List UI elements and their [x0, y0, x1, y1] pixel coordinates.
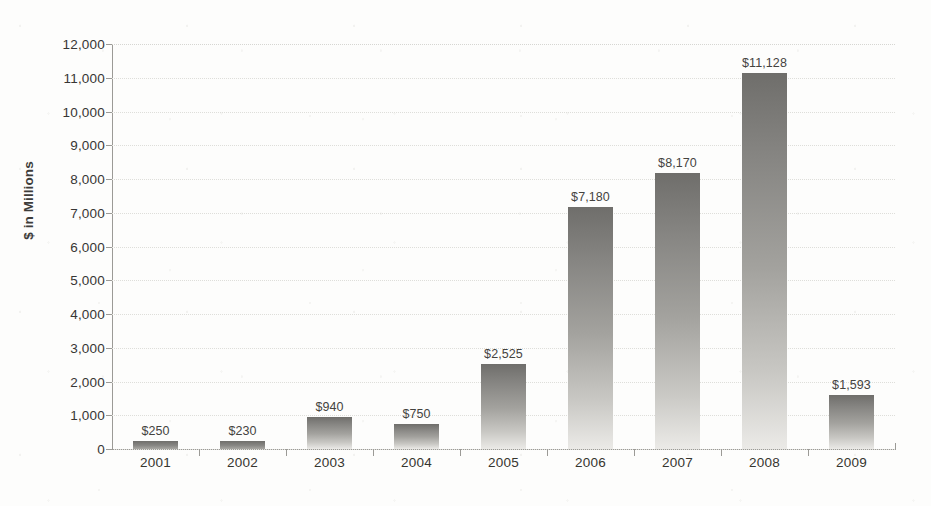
y-axis-tick-mark: [106, 415, 112, 416]
bar: [220, 441, 265, 449]
y-axis-tick-mark: [106, 78, 112, 79]
bar: [742, 73, 787, 449]
bar-value-label: $7,180: [546, 190, 636, 204]
bar: [829, 395, 874, 449]
bar: [481, 364, 526, 449]
y-axis-tick-label: 1,000: [0, 408, 105, 423]
y-axis-tick-label: 11,000: [0, 70, 105, 85]
y-axis-tick-label: 4,000: [0, 307, 105, 322]
y-axis-tick-label: 2,000: [0, 374, 105, 389]
bar-value-label: $8,170: [633, 156, 723, 170]
y-axis-tick-label: 8,000: [0, 172, 105, 187]
y-axis-tick-label: 0: [0, 442, 105, 457]
bar-value-label: $11,128: [720, 56, 810, 70]
y-axis-tick-mark: [106, 247, 112, 248]
x-axis-tick-label: 2001: [111, 455, 201, 470]
bar-value-label: $250: [111, 424, 201, 438]
x-axis-tick-label: 2003: [285, 455, 375, 470]
x-axis-tick-label: 2006: [546, 455, 636, 470]
y-axis-tick-label: 6,000: [0, 239, 105, 254]
y-axis-tick-mark: [106, 179, 112, 180]
y-axis-tick-mark: [106, 348, 112, 349]
y-axis-tick-mark: [106, 213, 112, 214]
y-axis-tick-label: 5,000: [0, 273, 105, 288]
y-axis-tick-label: 12,000: [0, 37, 105, 52]
y-axis-tick-mark: [106, 314, 112, 315]
x-axis-tick-label: 2008: [720, 455, 810, 470]
gridline: [112, 449, 895, 450]
y-axis-tick-mark: [106, 44, 112, 45]
bar-value-label: $1,593: [807, 378, 897, 392]
y-axis-tick-mark: [106, 280, 112, 281]
bar: [394, 424, 439, 449]
y-axis-tick-label: 9,000: [0, 138, 105, 153]
y-axis-tick-mark: [106, 112, 112, 113]
y-axis-tick-label: 10,000: [0, 104, 105, 119]
y-axis-tick-labels: 01,0002,0003,0004,0005,0006,0007,0008,00…: [0, 0, 105, 506]
gridline: [112, 44, 895, 45]
x-axis-tick-label: 2004: [372, 455, 462, 470]
bar: [568, 207, 613, 449]
plot-area: [112, 44, 895, 449]
x-axis-tick-label: 2009: [807, 455, 897, 470]
y-axis-tick-mark: [106, 145, 112, 146]
x-axis-tick-label: 2002: [198, 455, 288, 470]
bar-value-label: $230: [198, 424, 288, 438]
y-axis-tick-label: 7,000: [0, 205, 105, 220]
bar: [133, 441, 178, 449]
x-axis-tick-label: 2005: [459, 455, 549, 470]
x-axis-end-cap: [895, 443, 896, 450]
y-axis-tick-label: 3,000: [0, 340, 105, 355]
bar-value-label: $940: [285, 400, 375, 414]
bar: [655, 173, 700, 449]
bar: [307, 417, 352, 449]
bar-value-label: $2,525: [459, 347, 549, 361]
x-axis-end-cap: [112, 443, 113, 450]
y-axis-tick-mark: [106, 382, 112, 383]
bar-chart: $ in Millions 01,0002,0003,0004,0005,000…: [0, 0, 931, 506]
x-axis-tick-label: 2007: [633, 455, 723, 470]
bar-value-label: $750: [372, 407, 462, 421]
